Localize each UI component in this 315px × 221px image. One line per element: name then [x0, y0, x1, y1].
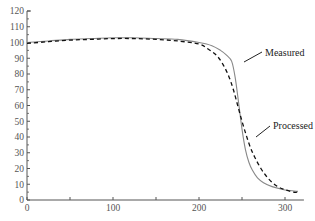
y-tick-label: 50 [15, 117, 25, 127]
annotation-layer: MeasuredProcessed [244, 47, 313, 137]
series-measured [27, 38, 298, 192]
y-axis: 0102030405060708090100110120 [10, 6, 31, 205]
x-axis: 0100200300 [25, 197, 304, 213]
y-tick-label: 0 [19, 195, 24, 205]
y-tick-label: 20 [15, 164, 25, 174]
y-tick-label: 10 [15, 180, 25, 190]
x-tick-label: 0 [25, 203, 30, 213]
series-processed [27, 38, 298, 192]
y-tick-label: 40 [15, 132, 25, 142]
annotation-processed: Processed [273, 120, 313, 131]
x-tick-label: 200 [192, 203, 207, 213]
x-tick-label: 100 [106, 203, 121, 213]
x-tick-label: 300 [278, 203, 293, 213]
series-layer [27, 38, 298, 193]
y-tick-label: 110 [10, 22, 24, 32]
annotation-measured: Measured [265, 47, 304, 58]
y-tick-label: 70 [15, 85, 25, 95]
y-tick-label: 100 [10, 38, 25, 48]
y-tick-label: 30 [15, 148, 25, 158]
y-tick-label: 60 [15, 101, 25, 111]
y-tick-label: 80 [15, 69, 25, 79]
line-chart: 0102030405060708090100110120 0100200300 … [0, 0, 315, 221]
y-tick-label: 120 [10, 6, 25, 16]
y-tick-label: 90 [15, 54, 25, 64]
